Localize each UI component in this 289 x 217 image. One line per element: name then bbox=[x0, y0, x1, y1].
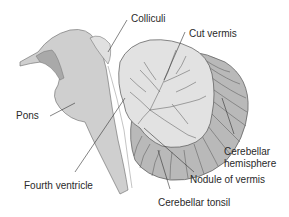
label-cut-vermis: Cut vermis bbox=[189, 28, 237, 39]
label-nodule-of-vermis: Nodule of vermis bbox=[190, 174, 265, 185]
label-cerebellar-tonsil: Cerebellar tonsil bbox=[158, 197, 230, 208]
label-cerebellar-hemisphere-1: Cerebellar bbox=[224, 146, 270, 157]
label-cerebellar-hemisphere-2: hemisphere bbox=[224, 158, 276, 169]
leader-colliculi bbox=[108, 20, 127, 52]
label-fourth-ventricle: Fourth ventricle bbox=[24, 180, 93, 191]
label-colliculi: Colliculi bbox=[131, 13, 165, 24]
label-pons: Pons bbox=[16, 110, 39, 121]
